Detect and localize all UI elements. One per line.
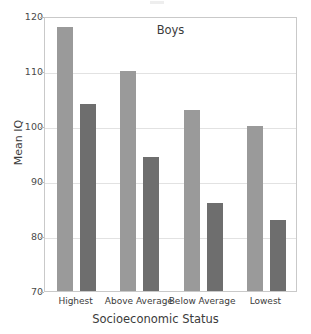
chart-figure: 708090100110120 Mean IQ Boys HighestAbov… [0, 0, 311, 334]
y-axis-tick-label: 110 [3, 67, 43, 77]
gridline [45, 73, 296, 74]
y-axis-tick-mark [40, 292, 44, 293]
y-axis-label: Mean IQ [12, 83, 25, 203]
top-edge-artifact [150, 1, 164, 4]
chart-title: Boys [44, 23, 297, 37]
y-axis-tick-label: 120 [3, 12, 43, 22]
bar [184, 110, 200, 292]
y-axis-tick-label: 80 [3, 232, 43, 242]
bar [57, 27, 73, 291]
bar [120, 71, 136, 291]
plot-area [44, 17, 297, 292]
bar [143, 157, 159, 291]
bar [207, 203, 223, 291]
x-axis-tick-label: Lowest [215, 296, 311, 306]
bar [270, 220, 286, 292]
bar [247, 126, 263, 291]
bar [80, 104, 96, 291]
x-axis-label: Socioeconomic Status [0, 312, 311, 326]
